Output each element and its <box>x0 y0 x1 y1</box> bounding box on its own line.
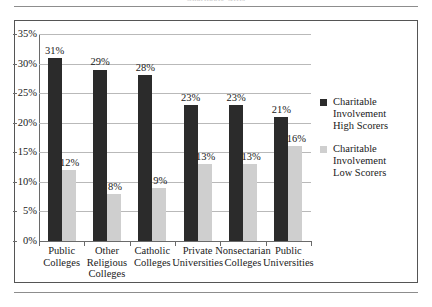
bar-value-label: 23% <box>222 93 250 103</box>
y-axis-tick-label: 5% <box>0 206 37 216</box>
chart-title: Charitable Gifts <box>0 0 432 3</box>
gridline <box>39 211 311 212</box>
y-axis-tick-label: 15% <box>0 147 37 157</box>
bar-high-scorers <box>229 105 243 241</box>
y-axis-tick-label: 10% <box>0 177 37 187</box>
x-axis-label-line: Colleges <box>76 268 137 280</box>
bar-high-scorers <box>184 105 198 241</box>
bar-value-label: 23% <box>177 93 205 103</box>
y-axis-tick-label: 35% <box>0 29 37 39</box>
bar-high-scorers <box>138 75 152 241</box>
y-axis-tick-label: 20% <box>0 118 37 128</box>
bar-high-scorers <box>48 58 62 241</box>
bar-value-label: 13% <box>192 152 220 162</box>
bar-low-scorers <box>288 146 302 241</box>
legend-label-line: High Scorers <box>333 120 416 132</box>
bottom-horizontal-rule <box>14 292 418 293</box>
y-axis-tick-label: 25% <box>0 88 37 98</box>
legend-label: CharitableInvolvementHigh Scorers <box>333 96 416 132</box>
gridline <box>39 34 311 35</box>
gridline <box>39 182 311 183</box>
bar-value-label: 12% <box>56 158 84 168</box>
bar-value-label: 16% <box>282 134 310 144</box>
x-axis-category-label: PublicUniversities <box>258 245 319 268</box>
bar-low-scorers <box>198 164 212 241</box>
bar-value-label: 31% <box>41 46 69 56</box>
legend-entry[interactable]: CharitableInvolvementHigh Scorers <box>320 96 416 132</box>
legend-label: CharitableInvolvementLow Scorers <box>333 143 416 179</box>
gridline <box>39 123 311 124</box>
bar-high-scorers <box>93 70 107 242</box>
bar-low-scorers <box>107 194 121 241</box>
legend-label-line: Involvement <box>333 108 416 120</box>
bar-value-label: 13% <box>237 152 265 162</box>
legend-label-line: Charitable <box>333 96 416 108</box>
bar-value-label: 29% <box>86 57 114 67</box>
legend-entry[interactable]: CharitableInvolvementLow Scorers <box>320 143 416 179</box>
x-axis-tick <box>311 242 312 246</box>
bar-low-scorers <box>152 188 166 241</box>
legend-swatch-icon <box>320 99 327 106</box>
bar-value-label: 8% <box>101 182 129 192</box>
bar-value-label: 21% <box>267 105 295 115</box>
y-axis: 35%30%25%20%15%10%5%0% <box>0 34 37 242</box>
top-horizontal-rule <box>14 6 418 7</box>
bar-value-label: 28% <box>131 63 159 73</box>
gridline <box>39 93 311 94</box>
cut-off-title-strip: Charitable Gifts <box>0 0 432 5</box>
x-axis-label-line: Universities <box>258 257 319 269</box>
x-axis-label-line: Public <box>258 245 319 257</box>
plot-area: 31%12%29%8%28%9%23%13%23%13%21%16% <box>39 34 311 241</box>
figure-frame: 35%30%25%20%15%10%5%0% 31%12%29%8%28%9%2… <box>14 20 418 283</box>
bar-low-scorers <box>243 164 257 241</box>
legend-swatch-icon <box>320 146 327 153</box>
gridline <box>39 152 311 153</box>
legend-label-line: Involvement <box>333 155 416 167</box>
y-axis-tick-label: 30% <box>0 59 37 69</box>
legend: CharitableInvolvementHigh ScorersCharita… <box>320 96 416 190</box>
bar-low-scorers <box>62 170 76 241</box>
legend-label-line: Low Scorers <box>333 167 416 179</box>
gridline <box>39 64 311 65</box>
bar-value-label: 9% <box>146 176 174 186</box>
legend-label-line: Charitable <box>333 143 416 155</box>
